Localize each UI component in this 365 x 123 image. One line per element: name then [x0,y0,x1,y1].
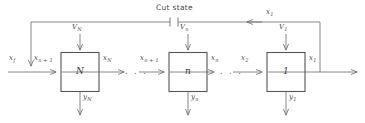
label-sub: 1 [284,26,287,32]
source-input-sub: f [13,57,15,63]
feedback-label-sub: 1 [270,11,273,17]
block-n-input-top-label: Vn [180,24,189,31]
block-n-output-right-label: xn [211,55,219,62]
block-N-label: N [76,67,84,76]
block-1-input-left-label: x2 [241,55,249,62]
label-sub: n [195,96,198,102]
label-sub: n + 1 [144,57,159,63]
cut-state-label: Cut state [156,4,193,12]
label-sub: n [185,26,188,32]
block-n-output-bottom-label: yn [191,94,199,101]
block-n-input-left-label: xn + 1 [140,55,159,62]
label-sub: N [107,57,112,63]
block-n-label: n [185,67,191,76]
block-N-output-bottom-label: yN [83,94,92,101]
block-1-label: 1 [283,67,289,76]
block-N-input-top-label: VN [72,24,82,31]
ellipsis-2: . . . [220,68,243,76]
label-sub: n [215,57,218,63]
source-input-label: xf [9,55,15,62]
label-sub: N [87,96,92,102]
block-N-output-right-label: xN [103,55,112,62]
label-sub: 2 [245,57,248,63]
block-N-input-left-label: xn + 1 [34,55,53,62]
block-diagram: Cut state x1 xf xn + 1 VN N xN yN . . . … [0,0,365,123]
ellipsis-1: . . . [125,68,148,76]
label-sub: 1 [293,96,296,102]
label-sub: 1 [313,57,316,63]
label-sub: N [77,26,82,32]
block-1-output-right-label: x1 [309,55,317,62]
feedback-label: x1 [266,9,274,16]
block-1-output-bottom-label: y1 [289,94,297,101]
label-sub: n + 1 [38,57,53,63]
block-1-input-top-label: V1 [279,24,288,31]
